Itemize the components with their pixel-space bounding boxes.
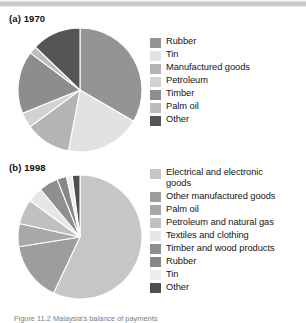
legend-swatch-icon [150, 77, 161, 87]
legend-item-label: Palm oil [166, 101, 199, 112]
legend-item: Tin [150, 49, 250, 61]
legend-item-label: Electrical and electronic goods [166, 167, 263, 189]
legend-item-label: Petroleum [166, 75, 208, 86]
legend-item: Textiles and clothing [150, 230, 275, 242]
panel-1998: (b) 1998 Electrical and electronic goods… [0, 159, 306, 311]
legend-swatch-icon [150, 64, 161, 74]
legend-swatch-icon [150, 38, 161, 48]
legend-swatch-icon [150, 270, 161, 280]
legend-item-label: Rubber [166, 256, 196, 267]
legend-item-label: Palm oil [166, 204, 199, 215]
pie-chart-1998 [16, 173, 146, 307]
panel-a-title: (a) 1970 [9, 13, 45, 24]
legend-item: Other [150, 282, 275, 294]
legend-swatch-icon [150, 51, 161, 61]
legend-item: Tin [150, 269, 275, 281]
pie-svg-1998 [16, 173, 146, 303]
legend-item-label: Rubber [166, 36, 196, 47]
pie-chart-1970 [16, 26, 146, 160]
legend-item-label: Other [166, 282, 189, 293]
legend-item-label: Textiles and clothing [166, 230, 249, 241]
legend-item: Petroleum and natural gas [150, 217, 275, 229]
figure-container: (a) 1970 RubberTinManufactured goodsPetr… [0, 0, 306, 323]
legend-item: Electrical and electronic goods [150, 167, 275, 189]
legend-swatch-icon [150, 218, 161, 228]
legend-1970: RubberTinManufactured goodsPetroleumTimb… [150, 36, 250, 127]
page-top-band [0, 0, 306, 7]
legend-swatch-icon [150, 205, 161, 215]
legend-item: Timber [150, 88, 250, 100]
legend-item: Palm oil [150, 204, 275, 216]
pie-svg-1970 [16, 26, 146, 156]
legend-item: Manufactured goods [150, 62, 250, 74]
legend-item-label: Other [166, 114, 189, 125]
legend-swatch-icon [150, 283, 161, 293]
legend-swatch-icon [150, 169, 161, 179]
legend-swatch-icon [150, 257, 161, 267]
legend-item-label: Petroleum and natural gas [166, 217, 274, 228]
legend-swatch-icon [150, 116, 161, 126]
legend-item: Other [150, 114, 250, 126]
figure-caption: Figure 11.2 Malaysia's balance of paymen… [14, 315, 306, 323]
legend-item: Rubber [150, 36, 250, 48]
legend-item-label: Other manufactured goods [166, 191, 275, 202]
legend-item: Timber and wood products [150, 243, 275, 255]
legend-1998: Electrical and electronic goodsOther man… [150, 167, 275, 295]
legend-swatch-icon [150, 244, 161, 254]
legend-swatch-icon [150, 90, 161, 100]
legend-item-label: Tin [166, 269, 178, 280]
legend-swatch-icon [150, 103, 161, 113]
legend-swatch-icon [150, 231, 161, 241]
legend-item-label: Manufactured goods [166, 62, 250, 73]
legend-swatch-icon [150, 192, 161, 202]
legend-item-label: Timber and wood products [166, 243, 275, 254]
legend-item: Rubber [150, 256, 275, 268]
legend-item: Palm oil [150, 101, 250, 113]
legend-item: Other manufactured goods [150, 191, 275, 203]
legend-item-label: Timber [166, 88, 194, 99]
legend-item-label: Tin [166, 49, 178, 60]
legend-item: Petroleum [150, 75, 250, 87]
panel-1970: (a) 1970 RubberTinManufactured goodsPetr… [0, 10, 306, 160]
panel-b-title: (b) 1998 [9, 162, 46, 173]
